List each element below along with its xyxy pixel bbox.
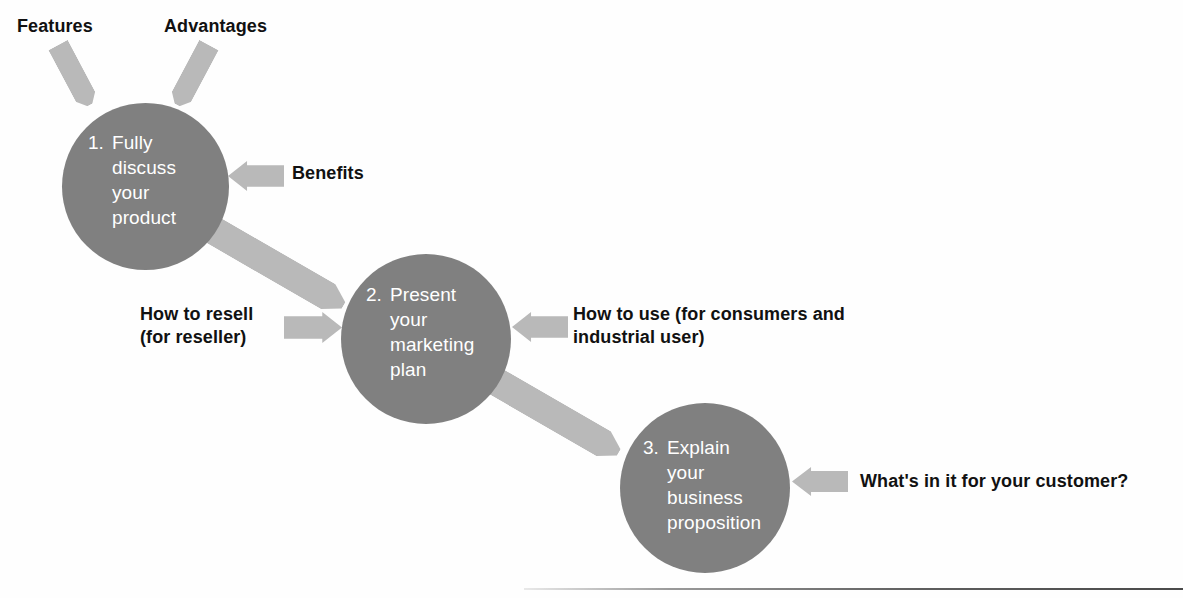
arrow-how-to-use-to-step2-icon (512, 312, 568, 342)
step-1-circle: 1. Fully discuss your product (62, 103, 229, 270)
arrow-benefits-to-step1-icon (228, 161, 284, 191)
step-3-circle: 3. Explain your business proposition (620, 403, 790, 573)
label-how-to-resell: How to resell (for reseller) (140, 303, 253, 349)
arrow-how-to-resell-to-step2-icon (284, 312, 342, 343)
step-1-text: Fully discuss your product (112, 130, 176, 230)
label-whats-in-it: What's in it for your customer? (860, 470, 1128, 493)
label-benefits: Benefits (292, 162, 364, 185)
arrow-advantages-to-step1-icon (167, 40, 218, 110)
arrow-features-to-step1-icon (48, 40, 99, 110)
label-advantages: Advantages (164, 15, 267, 38)
step-3-number: 3. (643, 435, 659, 460)
label-features: Features (17, 15, 93, 38)
label-how-to-use: How to use (for consumers and industrial… (573, 303, 845, 349)
step-2-text: Present your marketing plan (390, 282, 474, 382)
footer-divider (524, 588, 1183, 590)
step-2-circle: 2. Present your marketing plan (341, 254, 511, 424)
step-3-text: Explain your business proposition (667, 435, 761, 535)
step-2-number: 2. (366, 282, 382, 307)
arrow-step2-to-step3-icon (482, 365, 626, 465)
step-1-number: 1. (88, 130, 104, 155)
diagram-canvas: Features Advantages Benefits How to rese… (0, 0, 1183, 598)
diagram-stage: Features Advantages Benefits How to rese… (0, 0, 1183, 598)
arrow-whats-in-it-to-step3-icon (792, 467, 848, 496)
